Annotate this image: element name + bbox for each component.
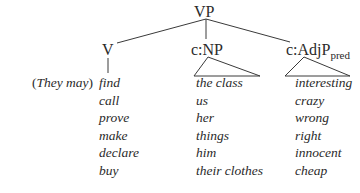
object-item: him <box>196 144 263 162</box>
branch-vp-to-v <box>117 19 206 43</box>
verb-item: declare <box>99 144 139 162</box>
subject-text: They may <box>37 75 89 90</box>
object-item: us <box>196 92 263 110</box>
subject-label: (They may) <box>32 74 93 92</box>
object-column: the class us her things him their clothe… <box>196 74 263 180</box>
verb-column: find call prove make declare buy <box>99 74 139 180</box>
predicate-item: cheap <box>295 162 352 180</box>
node-np: c:NP <box>191 42 223 58</box>
predicate-item: interesting <box>295 74 352 92</box>
node-adjp-subscript: pred <box>330 49 350 61</box>
object-item: her <box>196 109 263 127</box>
node-adjp-label: c:AdjP <box>286 41 330 58</box>
predicate-column: interesting crazy wrong right innocent c… <box>295 74 352 180</box>
verb-item: buy <box>99 162 139 180</box>
predicate-item: right <box>295 127 352 145</box>
verb-item: prove <box>99 109 139 127</box>
object-item: their clothes <box>196 162 263 180</box>
node-vp: VP <box>194 4 214 20</box>
node-adjp-pred: c:AdjPpred <box>286 42 350 63</box>
verb-item: find <box>99 74 139 92</box>
predicate-item: innocent <box>295 144 352 162</box>
predicate-item: crazy <box>295 92 352 110</box>
branch-vp-to-adjp <box>206 19 290 42</box>
object-item: things <box>196 127 263 145</box>
verb-item: call <box>99 92 139 110</box>
predicate-item: wrong <box>295 109 352 127</box>
object-item: the class <box>196 74 263 92</box>
node-v: V <box>102 42 114 58</box>
verb-item: make <box>99 127 139 145</box>
